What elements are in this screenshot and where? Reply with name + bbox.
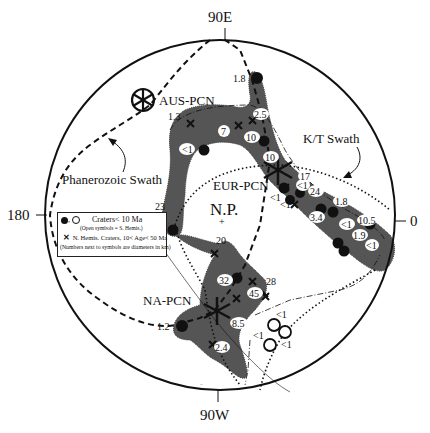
crater-label: 24: [310, 186, 320, 197]
crater-label: <1: [182, 144, 193, 155]
region-label-aus-pcn: AUS-PCN: [159, 93, 215, 108]
crater-label: <1: [297, 180, 308, 191]
x-marker-icon: ✕: [61, 233, 71, 242]
north-pole-marker: +: [219, 216, 225, 227]
crater-label: 8.5: [232, 318, 245, 329]
region-label-na-pcn: NA-PCN: [143, 293, 192, 308]
region-label-eur-pcn: EUR-PCN: [213, 178, 269, 193]
kt-arrow-icon: [348, 147, 360, 175]
legend-note-open-symbols: (Open symbols = S. Hemis.): [80, 225, 143, 231]
crater-label: 32: [219, 275, 229, 286]
crater-label: 2.5: [254, 109, 267, 120]
crater-label: 10: [246, 132, 256, 143]
crater-label: 1.3: [168, 111, 181, 122]
axis-label-90w: 90W: [200, 407, 230, 423]
axis-label-90e: 90E: [208, 9, 232, 25]
crater-label: <1: [341, 219, 352, 230]
kt-swath-label: K/T Swath: [303, 131, 360, 146]
legend-text-older: N. Hemis. Craters, 10< Age< 50 Ma: [73, 234, 168, 241]
phanerozoic-swath-label: Phanerozoic Swath: [62, 172, 163, 187]
crater-label: 20: [216, 235, 226, 246]
crater-label: 10: [265, 152, 275, 163]
crater-label: 7: [221, 126, 226, 137]
filled-circle-icon: [61, 217, 68, 224]
crater-label: <1: [366, 240, 377, 251]
legend-text-young: Craters< 10 Ma: [92, 215, 142, 224]
legend: , Craters< 10 Ma (Open symbols = S. Hemi…: [57, 212, 167, 257]
crater-label: 45: [249, 288, 259, 299]
legend-note-diameters: (Numbers next to symbols are diameters i…: [60, 244, 171, 250]
comma-separator: ,: [68, 215, 70, 224]
crater-label: 23: [155, 201, 165, 212]
crater-label: 3.4: [310, 212, 323, 223]
crater-label: 1.2: [157, 321, 170, 332]
phanerozoic-arrow-icon: [112, 141, 125, 172]
aus-pcn-symbol: [132, 89, 154, 111]
kt-arrowhead-icon: [343, 171, 352, 178]
crater-label: 1.8: [233, 73, 246, 84]
phanerozoic-arrowhead-icon: [108, 138, 117, 146]
crater-label: 1.8: [335, 196, 348, 207]
tiny-stamp: ▭: [200, 382, 203, 386]
crater-label: 1.9: [353, 230, 366, 241]
crater-label: 2.4: [215, 342, 228, 353]
crater-label: 10.5: [358, 215, 376, 226]
crater-label: <1: [253, 330, 264, 341]
crater-label: <1: [276, 309, 287, 320]
crater-label: 28: [266, 276, 276, 287]
legend-row-older-craters: ✕ N. Hemis. Craters, 10< Age< 50 Ma: [61, 233, 167, 242]
axis-label-180: 180: [7, 207, 30, 223]
open-circle-icon: [72, 216, 80, 224]
axis-label-0: 0: [410, 213, 418, 229]
crater-label: <1: [280, 199, 291, 210]
crater-label: <1: [281, 339, 292, 350]
legend-row-young-craters: , Craters< 10 Ma: [61, 215, 142, 224]
